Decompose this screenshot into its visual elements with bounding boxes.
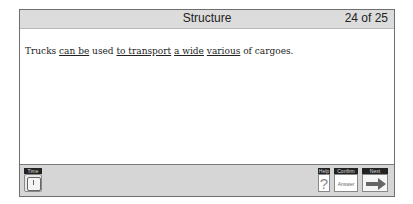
question-mark-icon: ? — [318, 174, 330, 192]
arrow-right-icon — [362, 174, 388, 192]
help-label: Help — [318, 168, 330, 174]
underlined-option-d[interactable]: various — [207, 46, 240, 56]
test-window: Structure 24 of 25 Trucks can be used to… — [19, 9, 395, 197]
section-title: Structure — [20, 11, 394, 25]
time-face — [24, 174, 42, 192]
sentence-text: of cargoes. — [240, 46, 293, 56]
sentence-text: used — [89, 46, 116, 56]
underlined-option-b[interactable]: to transport — [116, 46, 171, 56]
question-sentence: Trucks can be used to transport a wide v… — [25, 46, 293, 56]
time-button[interactable]: Time — [24, 168, 42, 192]
question-counter: 24 of 25 — [345, 11, 388, 25]
sentence-text: Trucks — [25, 46, 59, 56]
underlined-option-c[interactable]: a wide — [174, 46, 204, 56]
toolbar: Time Help ? Confirm Answer Next — [20, 164, 394, 196]
clock-icon — [27, 177, 41, 191]
underlined-option-a[interactable]: can be — [59, 46, 89, 56]
confirm-label: Confirm — [334, 168, 358, 174]
answer-text: Answer — [334, 174, 358, 192]
next-button[interactable]: Next — [362, 168, 388, 192]
header-bar: Structure 24 of 25 — [20, 10, 394, 29]
help-button[interactable]: Help ? — [318, 168, 330, 192]
confirm-answer-button[interactable]: Confirm Answer — [334, 168, 358, 192]
question-area: Trucks can be used to transport a wide v… — [20, 29, 394, 165]
